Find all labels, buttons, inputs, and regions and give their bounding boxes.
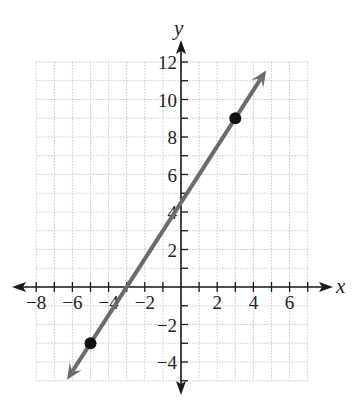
data-point (229, 112, 241, 124)
data-point (85, 337, 97, 349)
x-tick-labels: −8−6−4−2246 (26, 292, 294, 313)
y-tick-label: −2 (157, 315, 177, 336)
y-tick-label: 12 (158, 52, 177, 73)
x-tick-label: 4 (249, 292, 259, 313)
x-tick-label: 6 (285, 292, 295, 313)
x-tick-label: −6 (62, 292, 82, 313)
y-tick-label: −4 (157, 352, 178, 373)
y-tick-label: 10 (158, 90, 177, 111)
coordinate-plane: −8−6−4−2246 12108642−2−4 x y (0, 0, 364, 406)
y-tick-label: 6 (168, 165, 178, 186)
y-tick-label: 2 (168, 240, 178, 261)
y-tick-label: 8 (168, 127, 178, 148)
x-tick-label: −2 (135, 292, 155, 313)
x-tick-label: −8 (26, 292, 46, 313)
y-axis-label: y (172, 16, 184, 40)
x-axis-label: x (335, 274, 346, 298)
x-tick-label: 2 (212, 292, 222, 313)
